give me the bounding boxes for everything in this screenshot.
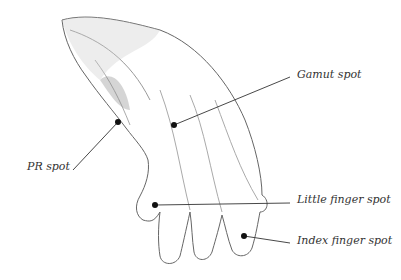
gamut-spot-dot [171, 122, 177, 128]
gamut-leader-line [174, 77, 290, 125]
pr-leader-line [73, 122, 118, 170]
little-finger-spot-dot [152, 202, 158, 208]
pr-spot-label: PR spot [27, 160, 70, 173]
little-leader-line [155, 203, 290, 205]
little-finger-spot-label: Little finger spot [297, 193, 391, 206]
hand-illustration: Gamut spot PR spot Little finger spot In… [0, 0, 401, 280]
index-finger-spot-label: Index finger spot [297, 234, 392, 247]
index-leader-line [244, 236, 290, 243]
pr-spot-dot [115, 119, 121, 125]
index-finger-spot-dot [241, 233, 247, 239]
gamut-spot-label: Gamut spot [297, 68, 362, 81]
